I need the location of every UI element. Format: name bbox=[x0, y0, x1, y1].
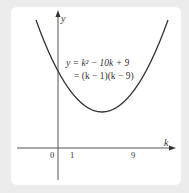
equation-line-1: y = k² − 10k + 9 bbox=[65, 58, 129, 68]
parabola-graph: y k 0 1 9 y = k² − 10k + 9 = (k − 1)(k −… bbox=[0, 0, 189, 193]
y-axis-label: y bbox=[60, 13, 66, 24]
origin-label: 0 bbox=[50, 150, 54, 160]
k-axis-label: k bbox=[164, 137, 169, 148]
tick-label-1: 1 bbox=[70, 150, 74, 160]
equation-line-2: = (k − 1)(k − 9) bbox=[74, 71, 134, 82]
k-axis-arrow-icon bbox=[169, 146, 176, 151]
y-axis-arrow-icon bbox=[56, 10, 61, 17]
tick-label-9: 9 bbox=[131, 150, 135, 160]
